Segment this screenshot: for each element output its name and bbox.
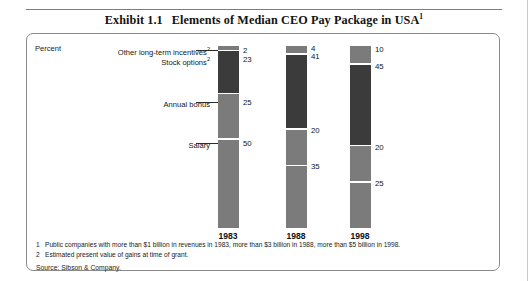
value-1998-stock-options: 45 <box>375 62 384 71</box>
segment-1988-stock-options <box>286 55 307 129</box>
footnote-1: 1Public companies with more than $1 bill… <box>36 240 506 250</box>
footnote-2: 2Estimated present value of gains at tim… <box>36 250 506 260</box>
segment-1983-stock-options <box>218 51 239 93</box>
bar-1983 <box>218 46 239 228</box>
footnote-2-number: 2 <box>36 250 45 260</box>
exhibit-page: Exhibit 1.1Elements of Median CEO Pay Pa… <box>0 0 528 281</box>
value-1983-salary: 50 <box>243 139 252 148</box>
category-label-stock-options: Stock options2 <box>161 56 210 67</box>
value-1983-annual-bonus: 25 <box>243 98 252 107</box>
segment-1998-annual-bonus <box>350 146 371 181</box>
footnote-1-number: 1 <box>36 240 45 250</box>
value-1998-other-long-term-incentives: 10 <box>375 45 384 54</box>
category-label-other-long-term-incentives: Other long-term incentives2 <box>118 46 210 57</box>
footnote-1-text: Public companies with more than $1 billi… <box>45 241 400 248</box>
segment-1998-other-long-term-incentives <box>350 46 371 63</box>
value-1988-stock-options: 41 <box>311 52 320 61</box>
value-1983-other-long-term-incentives: 2 <box>243 46 247 55</box>
category-label-salary: Salary <box>188 139 210 150</box>
segment-1998-stock-options <box>350 65 371 145</box>
source-line: Source: Sibson & Company. <box>36 264 506 271</box>
footnote-2-text: Estimated present value of gains at time… <box>45 251 188 258</box>
segment-1988-other-long-term-incentives <box>286 46 307 53</box>
footnotes-block: 1Public companies with more than $1 bill… <box>36 240 506 271</box>
bar-1988 <box>286 46 307 228</box>
value-1998-annual-bonus: 20 <box>375 143 384 152</box>
bar-1998 <box>350 46 371 228</box>
segment-1983-salary <box>218 140 239 228</box>
leader-line-annual-bonus <box>196 102 218 103</box>
segment-1998-salary <box>350 183 371 228</box>
category-label-annual-bonus: Annual bonus <box>164 98 210 109</box>
category-label-column: Other long-term incentives2 Stock option… <box>60 0 210 238</box>
title-footnote-marker: 1 <box>419 12 423 21</box>
value-1988-salary: 35 <box>311 162 320 171</box>
value-1988-annual-bonus: 20 <box>311 126 320 135</box>
leader-line-salary <box>196 143 218 144</box>
leader-line-other-long-term-incentives <box>196 50 218 51</box>
segment-1988-salary <box>286 166 307 228</box>
segment-1983-annual-bonus <box>218 94 239 138</box>
value-1983-stock-options: 23 <box>243 55 252 64</box>
value-1998-salary: 25 <box>375 179 384 188</box>
segment-1988-annual-bonus <box>286 130 307 165</box>
axis-unit-label: Percent <box>35 44 61 53</box>
